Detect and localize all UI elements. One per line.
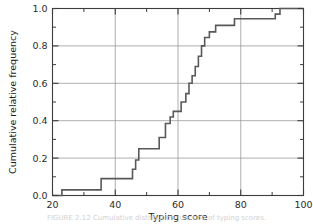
- x-axis-tick-label: 80: [235, 199, 247, 210]
- y-axis-tick-label: 0.8: [32, 40, 47, 51]
- x-axis-tick-label: 60: [172, 199, 184, 210]
- x-axis-tick-label: 40: [109, 199, 121, 210]
- figure-container: 204060801000.00.20.40.60.81.0Typing scor…: [0, 0, 313, 224]
- y-axis-tick-label: 0.6: [32, 78, 47, 89]
- y-axis-title: Cumulative relative frequency: [7, 30, 18, 174]
- y-axis-tick-label: 1.0: [32, 3, 47, 14]
- y-axis-tick-label: 0.2: [32, 153, 47, 164]
- x-axis-tick-label: 20: [46, 199, 58, 210]
- y-axis-tick-label: 0.4: [32, 115, 47, 126]
- x-axis-tick-label: 100: [294, 199, 312, 210]
- cumulative-relative-frequency-chart: 204060801000.00.20.40.60.81.0Typing scor…: [0, 0, 313, 224]
- figure-caption: FIGURE 2.12 Cumulative distribution func…: [0, 214, 313, 224]
- y-axis-tick-label: 0.0: [32, 190, 47, 201]
